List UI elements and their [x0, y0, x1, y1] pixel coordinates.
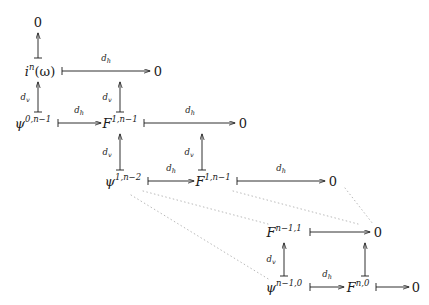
node-i-n-omega: in(ω) [25, 65, 55, 78]
node-psi-1-n-2: ψ1,n−2 [105, 175, 141, 188]
harrow-h-F1-to-zero [144, 119, 235, 127]
ellipsis-dots-middle [233, 191, 358, 224]
arrow-label-h-psin-to-Fn0: dh [322, 270, 332, 279]
arrow-label-h-psi0-to-F1: dh [74, 106, 84, 115]
varrow-v-psi0-to-inomega [34, 82, 42, 112]
commutative-diagram: 0in(ω)0ψ0,n−1F1,n−10ψ1,n−2F1,n−10Fn−1,10… [0, 0, 429, 305]
node-zero-r5: 0 [412, 281, 420, 294]
varrow-v-inomega-to-zerotop [34, 33, 42, 58]
arrow-label-v-psi1-to-F1: dv [102, 148, 111, 157]
varrow-v-F1b-to-zero-r2 [198, 134, 206, 170]
node-F-1-n-1-r3: F1,n−1 [195, 175, 230, 188]
varrow-v-F1-to-zero-r1 [116, 82, 124, 112]
varrow-v-psin-to-Fn11 [280, 243, 288, 276]
node-zero-top: 0 [34, 16, 42, 29]
node-psi-0-n-1: ψ0,n−1 [15, 117, 51, 130]
arrow-label-h-psi1-to-F1b: dh [166, 164, 176, 173]
node-zero-r3: 0 [329, 175, 337, 188]
arrow-label-v-F1b-to-zero-r2: dv [184, 148, 193, 157]
ellipsis-dots-right [345, 188, 373, 224]
arrow-label-v-psin-to-Fn11: dv [266, 255, 275, 264]
harrow-h-psin-to-Fn0 [310, 283, 344, 291]
harrow-h-F1b-to-zero [237, 177, 325, 185]
harrow-h-in-omega-to-zero [62, 67, 150, 75]
node-zero-r4: 0 [374, 226, 382, 239]
node-zero-r1: 0 [154, 65, 162, 78]
harrow-h-Fn0-to-zero [376, 283, 409, 291]
arrow-label-v-psi0-to-inomega: dv [20, 93, 29, 102]
node-psi-n-1-0: ψn−1,0 [266, 281, 302, 294]
varrow-v-psi1-to-F1 [116, 134, 124, 170]
ellipsis-dots-lower [131, 195, 270, 280]
node-F-n-1-1: Fn−1,1 [266, 226, 301, 239]
node-zero-r2: 0 [239, 117, 247, 130]
arrow-label-h-F1-to-zero: dh [185, 106, 195, 115]
ellipsis-dots-upper [143, 191, 268, 224]
varrow-v-Fn0-to-zero-r4 [361, 243, 369, 276]
node-F-n-0: Fn,0 [347, 281, 370, 294]
node-F-1-n-1-r2: F1,n−1 [102, 117, 137, 130]
harrow-h-Fn11-to-zero [310, 228, 370, 236]
harrow-h-psi0-to-F1 [58, 119, 101, 127]
arrow-label-h-F1b-to-zero: dh [276, 164, 286, 173]
harrow-h-psi1-to-F1b [148, 177, 194, 185]
diagram-lines [0, 0, 429, 305]
arrow-label-v-F1-to-zero-r1: dv [102, 93, 111, 102]
arrow-label-h-in-omega-to-zero: dh [101, 54, 111, 63]
